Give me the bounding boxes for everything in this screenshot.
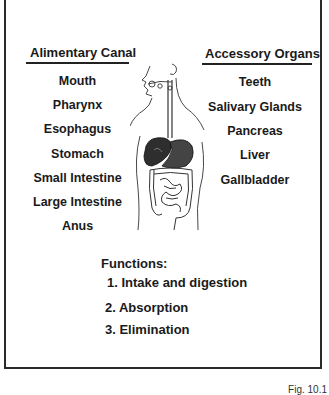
alimentary-canal-underline: [26, 62, 129, 64]
alimentary-item: Mouth: [26, 74, 129, 88]
digestive-system-illustration: [130, 58, 210, 238]
function-item: 2. Absorption: [105, 300, 188, 315]
figure-caption: Fig. 10.1: [288, 384, 327, 395]
alimentary-item: Large Intestine: [26, 195, 129, 209]
accessory-item: Teeth: [200, 75, 310, 89]
alimentary-canal-title: Alimentary Canal: [30, 45, 136, 60]
alimentary-item: Esophagus: [26, 122, 129, 136]
alimentary-item: Pharynx: [26, 98, 129, 112]
function-item: 1. Intake and digestion: [107, 275, 247, 290]
accessory-item: Salivary Glands: [200, 100, 310, 114]
accessory-item: Gallbladder: [200, 173, 310, 187]
accessory-organs-title: Accessory Organs: [205, 46, 320, 61]
functions-title: Functions:: [101, 256, 167, 271]
alimentary-item: Small Intestine: [26, 171, 129, 185]
alimentary-item: Stomach: [26, 147, 129, 161]
accessory-item: Pancreas: [200, 124, 310, 138]
alimentary-item: Anus: [26, 219, 129, 233]
accessory-item: Liver: [200, 148, 310, 162]
accessory-organs-underline: [202, 63, 312, 65]
function-item: 3. Elimination: [105, 322, 190, 337]
